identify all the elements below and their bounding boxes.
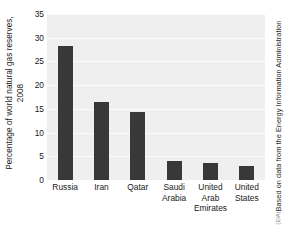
- bar: [239, 166, 254, 180]
- bar: [203, 163, 218, 180]
- x-tick-label-line: Russia: [47, 182, 83, 193]
- x-tick-label: Qatar: [120, 182, 156, 228]
- bar: [130, 112, 145, 180]
- bar-slot: [192, 14, 228, 180]
- x-tick-label-line: Saudi: [156, 182, 192, 193]
- x-tick-label-line: Arab: [192, 193, 228, 204]
- y-axis-tick-labels: 05101520253035: [26, 0, 44, 188]
- x-tick-label-line: Qatar: [120, 182, 156, 193]
- x-tick-label-line: United: [229, 182, 265, 193]
- y-axis-title-line2: 2008: [15, 16, 26, 170]
- source-credit-sub-text: (EIA): [275, 212, 281, 225]
- x-tick-label-line: States: [229, 193, 265, 204]
- y-tick-label: 5: [26, 152, 44, 161]
- bar-slot: [120, 14, 156, 180]
- y-tick-label: 10: [26, 128, 44, 137]
- x-tick-label: Russia: [47, 182, 83, 228]
- y-tick-label: 30: [26, 33, 44, 42]
- x-tick-label-line: United: [192, 182, 228, 193]
- x-tick-label: UnitedArabEmirates: [192, 182, 228, 228]
- plot-area: [47, 14, 265, 180]
- bar: [58, 46, 73, 180]
- x-tick-label: Iran: [83, 182, 119, 228]
- bar-slot: [83, 14, 119, 180]
- bar-slot: [47, 14, 83, 180]
- source-credit-sub: (EIA): [268, 207, 288, 229]
- y-tick-label: 25: [26, 57, 44, 66]
- x-tick-label-line: Iran: [83, 182, 119, 193]
- y-tick-label: 15: [26, 104, 44, 113]
- source-credit: Based on data from the Energy Informatio…: [267, 0, 289, 231]
- x-axis-tick-labels: RussiaIranQatarSaudiArabiaUnitedArabEmir…: [47, 182, 265, 228]
- bar-slot: [229, 14, 265, 180]
- y-tick-label: 20: [26, 81, 44, 90]
- bar: [94, 102, 109, 180]
- x-tick-label-line: Arabia: [156, 193, 192, 204]
- bar-slot: [156, 14, 192, 180]
- source-credit-text: Based on data from the Energy Informatio…: [274, 20, 283, 211]
- x-tick-label: UnitedStates: [229, 182, 265, 228]
- y-axis-title-line1: Percentage of world natural gas reserves…: [5, 16, 16, 170]
- x-tick-label: SaudiArabia: [156, 182, 192, 228]
- x-tick-label-line: Emirates: [192, 203, 228, 214]
- y-tick-label: 35: [26, 10, 44, 19]
- y-tick-label: 0: [26, 176, 44, 185]
- chart-figure: Percentage of world natural gas reserves…: [0, 0, 289, 231]
- bar-series: [47, 14, 265, 180]
- bar: [167, 161, 182, 180]
